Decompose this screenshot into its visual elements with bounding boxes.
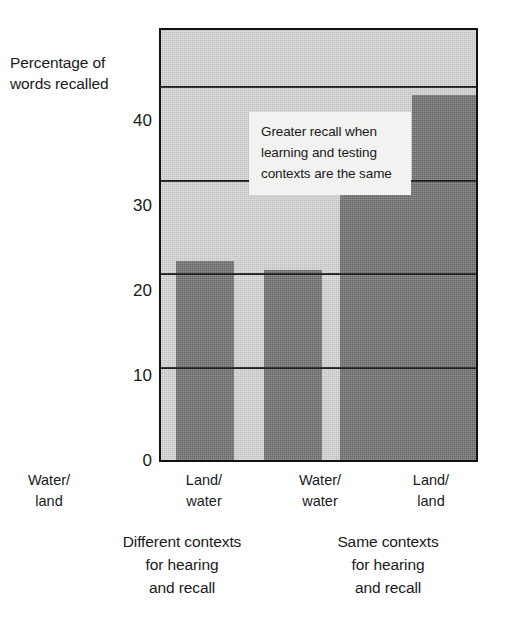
annotation-line-3: contexts are the same <box>261 163 401 184</box>
y-axis-title-line-2: words recalled <box>10 73 155 94</box>
chart-plot-inner <box>161 30 476 460</box>
category-label-land-land-line-2: land <box>376 491 486 512</box>
group-label-same-contexts-line-2: for hearing <box>293 553 483 576</box>
gridline-10 <box>161 367 476 369</box>
category-label-water-water-line-1: Water/ <box>265 470 375 491</box>
category-label-water-land-line-1: Water/ <box>0 470 104 491</box>
bar-water-water <box>340 180 412 460</box>
category-label-land-land: Land/ land <box>376 470 486 512</box>
annotation-line-1: Greater recall when <box>261 121 401 142</box>
y-tick-label-40: 40 <box>110 112 152 129</box>
gridline-20 <box>161 273 476 275</box>
category-label-land-water-line-1: Land/ <box>149 470 259 491</box>
chart-plot-area <box>159 28 478 462</box>
gridline-40 <box>161 86 476 88</box>
group-label-different-contexts-line-3: and recall <box>87 576 277 599</box>
group-label-different-contexts: Different contexts for hearing and recal… <box>87 530 277 599</box>
group-label-same-contexts-line-3: and recall <box>293 576 483 599</box>
y-tick-label-0: 0 <box>110 452 152 469</box>
y-axis-title-line-1: Percentage of <box>10 52 155 73</box>
y-axis-title: Percentage of words recalled <box>10 52 155 94</box>
category-label-water-land-line-2: land <box>0 491 104 512</box>
group-label-different-contexts-line-2: for hearing <box>87 553 277 576</box>
category-label-land-land-line-1: Land/ <box>376 470 486 491</box>
group-label-same-contexts-line-1: Same contexts <box>293 530 483 553</box>
category-label-water-land: Water/ land <box>0 470 104 512</box>
annotation-line-2: learning and testing <box>261 142 401 163</box>
annotation-callout: Greater recall when learning and testing… <box>249 112 411 195</box>
bar-water-land <box>176 261 234 460</box>
bar-land-water <box>264 270 322 460</box>
category-label-land-water: Land/ water <box>149 470 259 512</box>
category-label-water-water: Water/ water <box>265 470 375 512</box>
bar-land-land <box>412 95 476 460</box>
group-label-same-contexts: Same contexts for hearing and recall <box>293 530 483 599</box>
group-label-different-contexts-line-1: Different contexts <box>87 530 277 553</box>
category-label-land-water-line-2: water <box>149 491 259 512</box>
category-label-water-water-line-2: water <box>265 491 375 512</box>
y-tick-label-10: 10 <box>110 367 152 384</box>
y-tick-label-20: 20 <box>110 282 152 299</box>
y-tick-label-30: 30 <box>110 197 152 214</box>
